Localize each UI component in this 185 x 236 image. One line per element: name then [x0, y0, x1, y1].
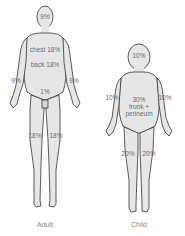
- adult-right-arm-label: 9%: [69, 78, 78, 85]
- adult-right-leg-label: 18%: [49, 133, 62, 140]
- adult-left-leg-label: 18%: [28, 133, 41, 140]
- adult-caption: Adult: [37, 221, 53, 228]
- child-caption: Child: [131, 221, 147, 228]
- adult-body-outline: [10, 6, 80, 207]
- child-trunk-label-3: perineum: [125, 111, 152, 118]
- child-right-arm-label: 10%: [158, 95, 171, 102]
- child-left-arm-label: 10%: [105, 95, 118, 102]
- body-diagrams: [0, 0, 185, 236]
- child-left-leg-label: 20%: [121, 151, 134, 158]
- adult-back-label: back 18%: [31, 62, 60, 69]
- child-head-label: 10%: [132, 53, 145, 60]
- child-right-leg-label: 20%: [142, 151, 155, 158]
- adult-perineum-label: 1%: [40, 89, 49, 96]
- adult-left-arm-label: 9%: [11, 78, 20, 85]
- child-body-outline: [106, 44, 172, 212]
- adult-chest-label: chest 18%: [30, 47, 60, 54]
- adult-head-label: 9%: [40, 14, 49, 21]
